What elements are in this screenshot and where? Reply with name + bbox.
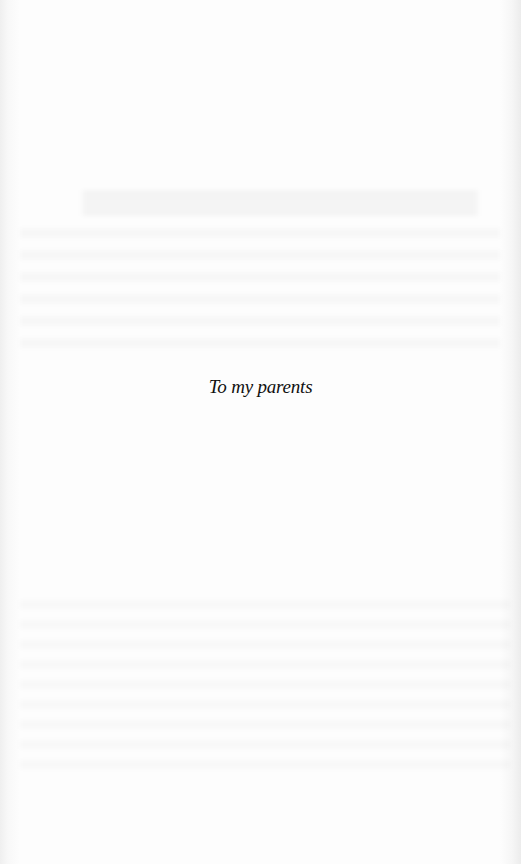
bleed-through-title [0,190,521,216]
dedication-page: To my parents [0,0,521,864]
dedication-text: To my parents [0,376,521,398]
bleed-through-text [20,228,500,358]
bleed-through-text-bottom [20,600,510,780]
